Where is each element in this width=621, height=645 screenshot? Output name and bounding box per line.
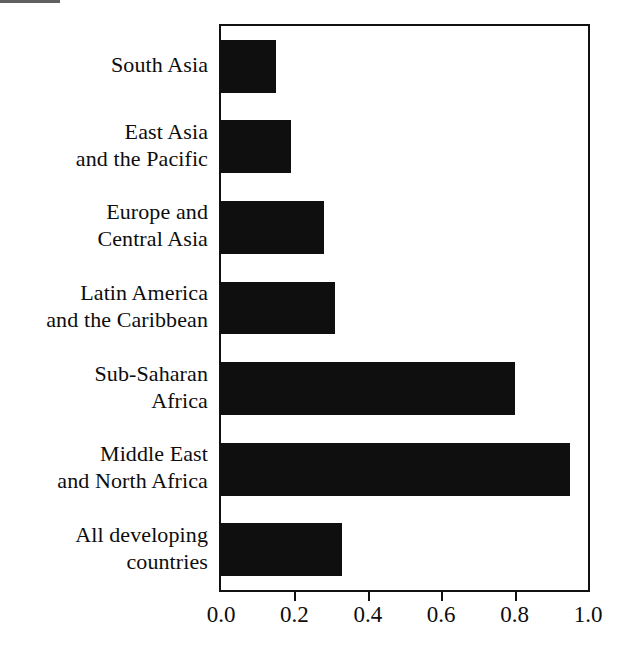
category-label-line: All developing (0, 521, 208, 548)
bar-row (221, 443, 588, 496)
category-label-line: and the Pacific (0, 145, 208, 172)
x-axis-tick-label: 0.8 (500, 600, 529, 630)
category-label: All developingcountries (0, 521, 208, 575)
x-axis-tick-label: 1.0 (574, 600, 603, 630)
category-label-line: South Asia (0, 51, 208, 78)
bar-row (221, 201, 588, 254)
category-label-line: Europe and (0, 198, 208, 225)
category-label-line: countries (0, 548, 208, 575)
category-label: South Asia (0, 51, 208, 78)
bar (221, 443, 570, 496)
bar-row (221, 40, 588, 93)
bar-row (221, 362, 588, 415)
category-label: East Asiaand the Pacific (0, 118, 208, 172)
bar (221, 282, 335, 335)
scan-artifact (0, 0, 60, 3)
x-axis-tick-label: 0.4 (353, 600, 382, 630)
x-axis-tick-label: 0.0 (207, 600, 236, 630)
category-label: Europe andCentral Asia (0, 198, 208, 252)
category-label: Sub-SaharanAfrica (0, 360, 208, 414)
category-label-line: Latin America (0, 279, 208, 306)
bar (221, 40, 276, 93)
bar (221, 120, 291, 173)
chart-page: South AsiaEast Asiaand the PacificEurope… (0, 0, 621, 645)
category-label: Latin Americaand the Caribbean (0, 279, 208, 333)
bar (221, 201, 324, 254)
bar-row (221, 282, 588, 335)
category-label-line: and the Caribbean (0, 306, 208, 333)
x-axis-tick-label: 0.6 (427, 600, 456, 630)
category-axis-labels: South AsiaEast Asiaand the PacificEurope… (0, 24, 208, 592)
category-label-line: Middle East (0, 440, 208, 467)
bar (221, 362, 515, 415)
x-axis-tick-label: 0.2 (280, 600, 309, 630)
category-label-line: and North Africa (0, 467, 208, 494)
bar-row (221, 120, 588, 173)
category-label-line: East Asia (0, 118, 208, 145)
category-label: Middle Eastand North Africa (0, 440, 208, 494)
bar-row (221, 523, 588, 576)
x-axis-tick-labels: 0.00.20.40.60.81.0 (219, 600, 590, 636)
bar (221, 523, 342, 576)
bars-layer (221, 26, 588, 590)
category-label-line: Africa (0, 387, 208, 414)
category-label-line: Sub-Saharan (0, 360, 208, 387)
category-label-line: Central Asia (0, 225, 208, 252)
